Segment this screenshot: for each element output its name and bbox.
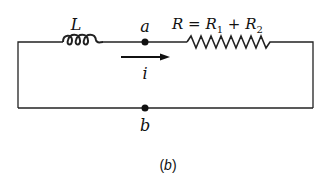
inductor-coil-icon [63, 35, 103, 45]
wire-right [272, 42, 313, 108]
current-arrow-icon [160, 54, 170, 61]
current-label: i [142, 64, 147, 83]
node-a-dot [142, 39, 149, 46]
node-a-label: a [140, 17, 150, 36]
wire-left-top [18, 42, 63, 108]
wires [18, 42, 313, 108]
resistor-label: R = R1 + R2 [171, 15, 263, 35]
node-b-dot [142, 105, 149, 112]
inductor-label: L [70, 15, 82, 34]
node-b-label: b [140, 116, 150, 135]
circuit-diagram: L R = R1 + R2 a i b (b) [0, 0, 320, 188]
resistor-zigzag-icon [187, 36, 272, 48]
figure-caption: (b) [159, 157, 176, 173]
